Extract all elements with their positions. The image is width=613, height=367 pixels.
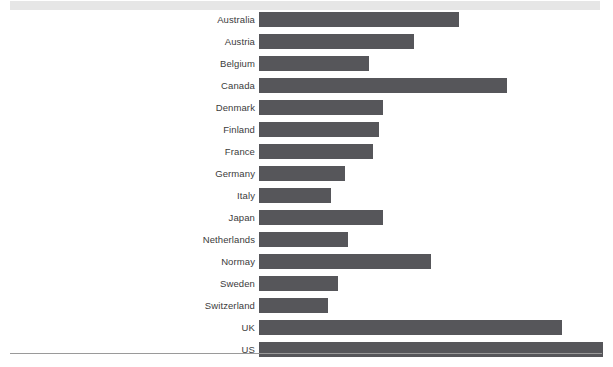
bar-fill (259, 12, 459, 27)
bar-track (259, 298, 613, 313)
bar-fill (259, 342, 603, 357)
bar-category-label: Netherlands (55, 233, 255, 246)
bar-track (259, 342, 613, 357)
bar-row: Germany (0, 165, 613, 187)
bar-track (259, 34, 613, 49)
bar-row: Belgium (0, 55, 613, 77)
bar-fill (259, 144, 373, 159)
bar-category-label: Denmark (55, 101, 255, 114)
bar-fill (259, 276, 338, 291)
bar-fill (259, 254, 431, 269)
bar-category-label: Belgium (55, 57, 255, 70)
bar-category-label: Austria (55, 35, 255, 48)
bar-track (259, 254, 613, 269)
bar-track (259, 232, 613, 247)
bar-category-label: Australia (55, 13, 255, 26)
bar-fill (259, 188, 331, 203)
bar-row: Switzerland (0, 297, 613, 319)
bar-category-label: Italy (55, 189, 255, 202)
bar-fill (259, 122, 379, 137)
chart-plot-area: AustraliaAustriaBelgiumCanadaDenmarkFinl… (0, 11, 613, 348)
bar-category-label: Japan (55, 211, 255, 224)
chart-figure: AustraliaAustriaBelgiumCanadaDenmarkFinl… (0, 0, 613, 367)
bar-row: Austria (0, 33, 613, 55)
bar-row: Sweden (0, 275, 613, 297)
bar-category-label: Normay (55, 255, 255, 268)
bar-fill (259, 232, 348, 247)
bar-category-label: Canada (55, 79, 255, 92)
bar-track (259, 210, 613, 225)
bar-fill (259, 210, 383, 225)
bottom-rule-divider (10, 353, 602, 354)
bar-track (259, 166, 613, 181)
bar-category-label: Finland (55, 123, 255, 136)
bar-track (259, 122, 613, 137)
bar-track (259, 276, 613, 291)
header-band (10, 1, 600, 10)
bar-row: Denmark (0, 99, 613, 121)
bar-track (259, 320, 613, 335)
bar-fill (259, 298, 328, 313)
bar-category-label: US (55, 343, 255, 356)
bar-row: US (0, 341, 613, 363)
bar-category-label: UK (55, 321, 255, 334)
bar-fill (259, 166, 345, 181)
bar-row: France (0, 143, 613, 165)
bar-fill (259, 78, 507, 93)
bar-track (259, 78, 613, 93)
bar-row: UK (0, 319, 613, 341)
bar-row: Italy (0, 187, 613, 209)
bar-track (259, 56, 613, 71)
bar-row: Canada (0, 77, 613, 99)
bar-category-label: Sweden (55, 277, 255, 290)
bar-track (259, 144, 613, 159)
bar-track (259, 12, 613, 27)
bar-track (259, 188, 613, 203)
bar-category-label: France (55, 145, 255, 158)
bar-fill (259, 56, 369, 71)
bar-category-label: Switzerland (55, 299, 255, 312)
bar-fill (259, 100, 383, 115)
bar-row: Japan (0, 209, 613, 231)
bar-row: Finland (0, 121, 613, 143)
bar-fill (259, 320, 562, 335)
bar-row: Australia (0, 11, 613, 33)
bar-fill (259, 34, 414, 49)
bar-category-label: Germany (55, 167, 255, 180)
bar-row: Normay (0, 253, 613, 275)
bar-row: Netherlands (0, 231, 613, 253)
bar-track (259, 100, 613, 115)
